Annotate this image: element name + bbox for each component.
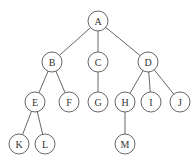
tree-node-f: F bbox=[59, 92, 79, 112]
edge-a-d bbox=[106, 27, 141, 55]
tree-node-g: G bbox=[88, 92, 108, 112]
tree-node-m: M bbox=[115, 134, 135, 154]
tree-node-j: J bbox=[170, 92, 190, 112]
tree-node-d: D bbox=[138, 52, 158, 72]
edge-b-f bbox=[56, 71, 65, 93]
tree-node-l: L bbox=[35, 134, 55, 154]
node-label: B bbox=[49, 57, 56, 68]
node-label: K bbox=[15, 139, 23, 150]
node-label: J bbox=[178, 97, 182, 108]
tree-node-e: E bbox=[25, 92, 45, 112]
tree-node-c: C bbox=[88, 52, 108, 72]
node-label: L bbox=[42, 139, 48, 150]
edge-a-b bbox=[59, 28, 90, 56]
nodes-group: ABCDEFGHIJKLM bbox=[9, 11, 190, 154]
node-label: C bbox=[95, 57, 102, 68]
edge-e-l bbox=[37, 112, 42, 135]
tree-diagram: ABCDEFGHIJKLM bbox=[0, 0, 196, 167]
tree-svg: ABCDEFGHIJKLM bbox=[0, 0, 196, 167]
node-label: G bbox=[94, 97, 101, 108]
edge-d-j bbox=[154, 70, 174, 94]
tree-node-b: B bbox=[42, 52, 62, 72]
node-label: F bbox=[66, 97, 72, 108]
edge-d-i bbox=[149, 72, 151, 92]
tree-node-a: A bbox=[88, 11, 108, 31]
node-label: D bbox=[144, 57, 151, 68]
tree-node-i: I bbox=[141, 92, 161, 112]
node-label: H bbox=[121, 97, 128, 108]
tree-node-h: H bbox=[115, 92, 135, 112]
tree-node-k: K bbox=[9, 134, 29, 154]
node-label: E bbox=[32, 97, 38, 108]
edges-group bbox=[23, 27, 174, 134]
node-label: A bbox=[94, 16, 102, 27]
edge-b-e bbox=[39, 71, 48, 93]
edge-e-k bbox=[23, 111, 32, 134]
edge-d-h bbox=[130, 71, 143, 94]
node-label: M bbox=[121, 139, 130, 150]
node-label: I bbox=[149, 97, 152, 108]
